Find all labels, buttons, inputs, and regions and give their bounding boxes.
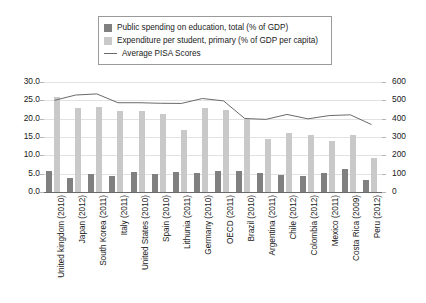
tick-mark-right — [382, 119, 386, 120]
bar-expenditure-per-student — [96, 107, 102, 192]
bar-expenditure-per-student — [371, 158, 377, 192]
y-axis-right-tick-label: 400 — [392, 114, 422, 123]
y-axis-left-tick-label: 10.0 — [6, 150, 40, 159]
tick-mark-right — [382, 174, 386, 175]
bar-public-spending — [109, 176, 115, 192]
x-axis-labels: United kingdom (2010)Japan (2012)South K… — [44, 195, 382, 301]
x-axis-label-cell: Lithunia (2011) — [171, 195, 192, 301]
x-axis-label-cell: Spain (2010) — [150, 195, 171, 301]
x-axis-label-cell: South Korea (2011) — [86, 195, 107, 301]
x-axis-label-cell: Argentina (2011) — [255, 195, 276, 301]
bar-group — [44, 82, 65, 192]
bar-expenditure-per-student — [350, 135, 356, 192]
bar-group — [276, 82, 297, 192]
x-axis-label-cell: Japan (2012) — [65, 195, 86, 301]
y-axis-right-tick-label: 600 — [392, 77, 422, 86]
bar-group — [255, 82, 276, 192]
bar-group — [129, 82, 150, 192]
legend-item-pisa-scores: Average PISA Scores — [104, 47, 326, 60]
bar-group — [361, 82, 382, 192]
tick-mark-right — [382, 155, 386, 156]
bar-expenditure-per-student — [223, 110, 229, 192]
x-axis-label-cell: Costa Rica (2009) — [340, 195, 361, 301]
bar-group — [340, 82, 361, 192]
bar-public-spending — [46, 171, 52, 192]
bar-public-spending — [342, 169, 348, 192]
bar-group — [234, 82, 255, 192]
bar-public-spending — [88, 174, 94, 192]
bar-expenditure-per-student — [160, 114, 166, 192]
bar-group — [107, 82, 128, 192]
bar-public-spending — [300, 176, 306, 192]
legend-swatch-dark-icon — [104, 24, 112, 32]
bar-group — [171, 82, 192, 192]
bar-group — [298, 82, 319, 192]
legend-swatch-light-icon — [104, 37, 112, 45]
bar-expenditure-per-student — [117, 111, 123, 192]
bar-public-spending — [321, 173, 327, 192]
bar-group — [319, 82, 340, 192]
legend-label-pisa-scores: Average PISA Scores — [122, 49, 201, 59]
legend-item-expenditure-per-student: Expenditure per student, primary (% of G… — [104, 34, 326, 47]
bar-public-spending — [67, 178, 73, 192]
bar-public-spending — [131, 172, 137, 192]
bar-public-spending — [152, 174, 158, 192]
legend-label-public-spending: Public spending on education, total (% o… — [117, 23, 288, 33]
bar-group — [213, 82, 234, 192]
y-axis-right-tick-label: 200 — [392, 150, 422, 159]
x-axis-label-cell: Brazil (2010) — [234, 195, 255, 301]
bar-expenditure-per-student — [139, 111, 145, 192]
bar-expenditure-per-student — [54, 97, 60, 192]
y-axis-right-tick-label: 300 — [392, 132, 422, 141]
bar-group — [192, 82, 213, 192]
bar-expenditure-per-student — [202, 108, 208, 192]
plot-area — [44, 82, 382, 193]
x-axis-label-cell: United States (2010) — [129, 195, 150, 301]
bar-public-spending — [173, 172, 179, 192]
y-axis-left-tick-label: 30.0 — [6, 77, 40, 86]
chart-legend: Public spending on education, total (% o… — [98, 16, 332, 65]
x-axis-label-cell: Colombia (2012) — [298, 195, 319, 301]
bar-public-spending — [194, 173, 200, 192]
bar-group — [86, 82, 107, 192]
y-axis-left-tick-label: 25.0 — [6, 95, 40, 104]
bar-group — [150, 82, 171, 192]
bar-expenditure-per-student — [308, 135, 314, 192]
bar-public-spending — [236, 171, 242, 192]
y-axis-right-tick-label: 0 — [392, 187, 422, 196]
y-axis-left-tick-label: 20.0 — [6, 114, 40, 123]
y-axis-left-tick-label: 0.0 — [6, 187, 40, 196]
x-axis-label-cell: Chile (2012) — [276, 195, 297, 301]
bar-public-spending — [215, 171, 221, 192]
y-axis-right-tick-label: 100 — [392, 169, 422, 178]
chart-container: Public spending on education, total (% o… — [0, 0, 426, 303]
x-axis-label-cell: Germany (2010) — [192, 195, 213, 301]
y-axis-left-tick-label: 5.0 — [6, 169, 40, 178]
bar-group — [65, 82, 86, 192]
tick-mark-right — [382, 192, 386, 193]
bar-expenditure-per-student — [181, 130, 187, 192]
x-axis-label-cell: United kingdom (2010) — [44, 195, 65, 301]
bar-series-group — [44, 82, 382, 192]
bar-expenditure-per-student — [265, 139, 271, 192]
tick-mark-left — [40, 192, 44, 193]
y-axis-right-tick-label: 500 — [392, 95, 422, 104]
bar-public-spending — [257, 173, 263, 192]
bar-expenditure-per-student — [244, 119, 250, 192]
y-axis-left-tick-label: 15.0 — [6, 132, 40, 141]
x-axis-label-cell: Italy (2011) — [107, 195, 128, 301]
legend-item-public-spending: Public spending on education, total (% o… — [104, 21, 326, 34]
legend-label-expenditure-per-student: Expenditure per student, primary (% of G… — [117, 36, 318, 46]
bar-public-spending — [278, 175, 284, 192]
x-axis-label-cell: Mexico (2011) — [319, 195, 340, 301]
bar-public-spending — [363, 180, 369, 192]
x-axis-label-cell: OECD (2011) — [213, 195, 234, 301]
x-axis-tick-label: Peru (2012) — [374, 195, 382, 238]
tick-mark-right — [382, 137, 386, 138]
bar-expenditure-per-student — [75, 108, 81, 192]
x-axis-label-cell: Peru (2012) — [361, 195, 382, 301]
tick-mark-right — [382, 82, 386, 83]
bar-expenditure-per-student — [329, 141, 335, 192]
legend-line-marker-icon — [104, 53, 117, 54]
bar-expenditure-per-student — [286, 133, 292, 192]
